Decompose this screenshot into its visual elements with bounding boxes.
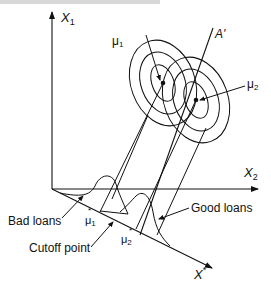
good-loans-label: Good loans bbox=[191, 201, 252, 215]
bad-loans-curve bbox=[60, 176, 128, 214]
x2-label: X2 bbox=[243, 165, 258, 182]
baseline-segment bbox=[100, 211, 128, 214]
mu2-star-sup: * bbox=[129, 226, 132, 235]
mu2-label: μ2 bbox=[247, 77, 259, 92]
mu1-label: μ1 bbox=[112, 34, 124, 49]
mu2-star-label: μ2 bbox=[121, 233, 132, 247]
diagram-canvas: X1 X2 X* A' μ1 μ2 μ1 * μ2 * Bad loans Go… bbox=[0, 0, 271, 288]
mu2-point bbox=[194, 98, 199, 103]
mu1-star-label: μ1 bbox=[85, 214, 96, 228]
cropped-header-text bbox=[0, 0, 160, 4]
discriminant-diagram: X1 X2 X* A' μ1 μ2 μ1 * μ2 * Bad loans Go… bbox=[0, 0, 271, 288]
x1-label: X1 bbox=[60, 10, 75, 27]
mu1-leader bbox=[146, 35, 160, 80]
good-loans-leader bbox=[159, 208, 189, 219]
bad-loans-label: Bad loans bbox=[8, 214, 61, 228]
mu1-star-sup: * bbox=[88, 206, 91, 215]
discriminant-label: A' bbox=[214, 27, 226, 41]
cutoff-label: Cutoff point bbox=[29, 241, 91, 255]
mu2-leader bbox=[200, 86, 245, 100]
xstar-label: X* bbox=[193, 265, 207, 282]
mu1-point bbox=[161, 81, 166, 86]
